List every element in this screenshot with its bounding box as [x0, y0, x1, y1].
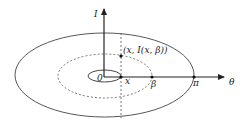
beta-label: β: [150, 79, 156, 89]
origin-label: 0: [97, 73, 103, 83]
middle-orbit: [58, 54, 152, 98]
point-x: [119, 75, 122, 78]
vertical-axis-label: I: [93, 9, 98, 19]
x-label: x: [125, 76, 130, 86]
horizontal-axis-label: θ: [229, 77, 235, 87]
pi-label: π: [192, 78, 200, 88]
point-label: (x, I(x, β)): [123, 45, 168, 55]
phase-portrait-diagram: I θ 0 x β π (x, I(x, β)): [0, 0, 244, 124]
